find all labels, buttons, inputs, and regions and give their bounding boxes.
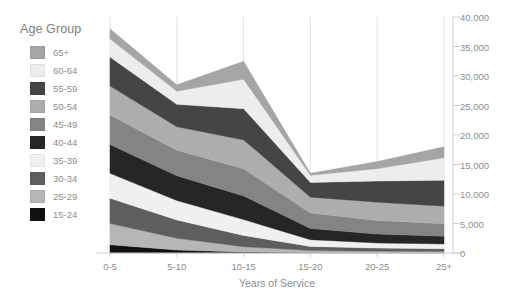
y-tick-label: 0 [460, 248, 465, 259]
y-tick-label: 30,000 [460, 71, 489, 82]
x-tick-label: 10-15 [231, 261, 255, 272]
y-tick-label: 25,000 [460, 100, 489, 111]
chart-canvas [0, 0, 520, 305]
series-areas [110, 29, 444, 253]
x-tick-label: 15-20 [298, 261, 322, 272]
y-tick-label: 15,000 [460, 159, 489, 170]
y-tick-label: 5,000 [460, 218, 484, 229]
y-tick-label: 35,000 [460, 41, 489, 52]
x-tick-label: 5-10 [167, 261, 186, 272]
plot-area [0, 0, 520, 305]
x-tick-label: 20-25 [365, 261, 389, 272]
y-tick-label: 20,000 [460, 130, 489, 141]
x-tick-label: 25+ [436, 261, 452, 272]
x-axis-title: Years of Service [239, 277, 315, 289]
x-tick-label: 0-5 [103, 261, 117, 272]
stacked-area-chart: Age Group 65+60-6455-5950-5445-4940-4435… [0, 0, 520, 305]
y-tick-marks [453, 17, 460, 253]
x-tick-marks [110, 253, 444, 257]
y-tick-label: 10,000 [460, 189, 489, 200]
y-tick-label: 40,000 [460, 12, 489, 23]
